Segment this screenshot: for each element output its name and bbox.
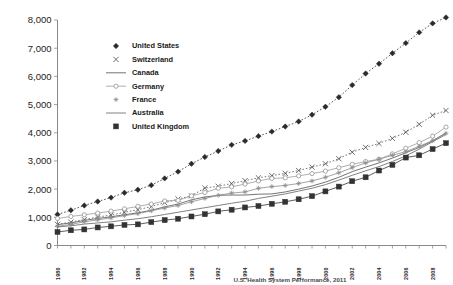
x-tick-label: 1990 (189, 268, 195, 280)
data-point-marker (430, 113, 435, 118)
y-tick-label: 6,000 (28, 71, 52, 82)
y-tick-label: 1,000 (28, 212, 52, 223)
data-point-marker (403, 155, 408, 160)
data-point-marker (122, 213, 127, 218)
data-point-marker (269, 129, 274, 134)
legend-item-australia[interactable]: Australia (106, 108, 165, 117)
data-point-marker (243, 205, 248, 210)
data-point-marker (363, 161, 368, 166)
data-point-marker (149, 202, 153, 206)
data-point-marker (95, 217, 100, 222)
data-point-marker (176, 198, 180, 202)
data-point-marker (95, 225, 100, 230)
legend-item-switzerland[interactable]: Switzerland (106, 55, 174, 64)
x-tick-label: 1980 (55, 268, 61, 280)
data-point-marker (283, 183, 288, 188)
data-point-marker (189, 199, 194, 204)
chart-caption: U.S. Health System Performance, 2011 (234, 276, 347, 283)
data-point-marker (176, 203, 181, 208)
data-point-marker (256, 204, 261, 209)
series-line (58, 133, 447, 226)
data-point-marker (336, 184, 341, 189)
data-point-marker (270, 176, 274, 180)
data-point-marker (243, 190, 248, 195)
data-point-marker (216, 186, 220, 190)
data-point-marker (417, 153, 422, 158)
data-point-marker (55, 216, 59, 220)
data-point-marker (323, 189, 328, 194)
data-point-marker (229, 142, 234, 147)
legend-item-united-states[interactable]: United States (106, 41, 179, 50)
data-point-marker (149, 208, 154, 213)
data-point-marker (189, 194, 193, 198)
data-point-marker (350, 165, 355, 170)
legend-label: Germany (132, 82, 165, 91)
data-point-marker (444, 141, 449, 146)
data-point-marker (68, 228, 73, 233)
data-point-marker (363, 175, 368, 180)
data-point-marker (136, 204, 140, 208)
data-point-marker (444, 125, 448, 129)
series-australia (58, 134, 447, 226)
data-point-marker (216, 148, 221, 153)
data-point-marker (363, 145, 368, 150)
data-point-marker (403, 149, 408, 154)
data-point-marker (309, 112, 314, 117)
data-point-marker (82, 227, 87, 232)
x-tick-label: 2008 (430, 268, 436, 280)
data-point-marker (82, 213, 86, 217)
data-point-marker (377, 168, 382, 173)
y-tick-label: 3,000 (28, 155, 52, 166)
legend-label: Switzerland (132, 55, 174, 64)
data-point-marker (336, 156, 341, 161)
data-point-marker (296, 181, 301, 186)
x-tick-label: 1986 (135, 268, 141, 280)
data-point-marker (310, 179, 315, 184)
data-point-marker (443, 108, 448, 113)
legend-item-united-kingdom[interactable]: United Kingdom (106, 122, 189, 131)
data-point-marker (203, 190, 207, 194)
data-point-marker (229, 191, 234, 196)
data-point-marker (114, 84, 118, 88)
x-tick-label: 2006 (403, 268, 409, 280)
data-point-marker (175, 169, 180, 174)
x-tick-label: 2004 (376, 268, 382, 280)
data-point-marker (114, 124, 119, 129)
data-point-marker (323, 169, 327, 173)
x-tick-label: 2002 (349, 268, 355, 280)
data-point-marker (189, 214, 194, 219)
y-axis-ticks: 01,0002,0003,0004,0005,0006,0007,0008,00… (28, 14, 58, 251)
data-point-marker (216, 209, 221, 214)
y-tick-label: 2,000 (28, 184, 52, 195)
data-point-marker (109, 209, 113, 213)
y-tick-label: 5,000 (28, 99, 52, 110)
data-point-marker (55, 229, 60, 234)
data-point-marker (390, 136, 395, 141)
y-tick-label: 8,000 (28, 14, 52, 25)
data-point-marker (122, 207, 126, 211)
legend-item-germany[interactable]: Germany (106, 82, 165, 91)
data-point-marker (297, 174, 301, 178)
legend-item-canada[interactable]: Canada (106, 68, 160, 77)
data-point-marker (323, 175, 328, 180)
data-point-marker (269, 201, 274, 206)
legend-item-france[interactable]: France (106, 95, 156, 104)
x-tick-label: 1982 (81, 268, 87, 280)
data-point-marker (122, 190, 127, 195)
data-point-marker (363, 71, 368, 76)
data-point-marker (176, 216, 181, 221)
data-point-marker (149, 182, 154, 187)
data-point-marker (135, 222, 140, 227)
data-point-marker (323, 161, 328, 166)
data-point-marker (256, 133, 261, 138)
data-point-marker (202, 154, 207, 159)
data-point-marker (243, 182, 247, 186)
data-point-marker (269, 184, 274, 189)
data-point-marker (337, 166, 341, 170)
data-point-marker (283, 199, 288, 204)
data-point-marker (323, 104, 328, 109)
data-point-marker (430, 21, 435, 26)
legend-label: United States (132, 41, 179, 50)
data-point-marker (163, 199, 167, 203)
data-point-marker (202, 212, 207, 217)
